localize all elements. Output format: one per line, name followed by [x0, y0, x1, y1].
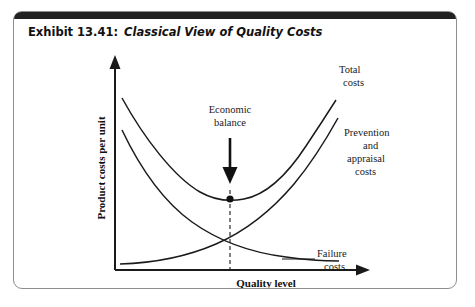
failure-costs-label-line2: costs — [324, 261, 345, 272]
y-axis — [110, 55, 121, 270]
exhibit-caption: Classical View of Quality Costs — [124, 25, 322, 39]
economic-balance-label-line1: Economic — [209, 104, 252, 115]
prevention-appraisal-label-line3: appraisal — [347, 153, 385, 164]
prevention-appraisal-label-line4: costs — [355, 166, 376, 177]
chart-figure: Economic balance Total costs Prevention … — [14, 42, 458, 288]
exhibit-frame: Exhibit 13.41:Classical View of Quality … — [13, 11, 457, 289]
x-axis-title: Quality level — [236, 277, 296, 288]
prevention-appraisal-label-line1: Prevention — [344, 127, 390, 138]
total-costs-label-line1: Total — [339, 64, 361, 75]
quality-costs-chart: Economic balance Total costs Prevention … — [14, 42, 458, 288]
total-costs-label-line2: costs — [343, 77, 364, 88]
y-axis-title: Product costs per unit — [95, 116, 107, 220]
prevention-appraisal-label-line2: and — [363, 140, 379, 151]
economic-balance-point — [226, 195, 233, 202]
title-bar — [14, 12, 456, 19]
economic-balance-arrow-icon — [223, 138, 238, 184]
exhibit-number: Exhibit 13.41: — [28, 25, 118, 39]
failure-costs-label-line1: Failure — [317, 248, 347, 259]
economic-balance-label-line2: balance — [214, 117, 246, 128]
exhibit-title: Exhibit 13.41:Classical View of Quality … — [28, 25, 322, 39]
